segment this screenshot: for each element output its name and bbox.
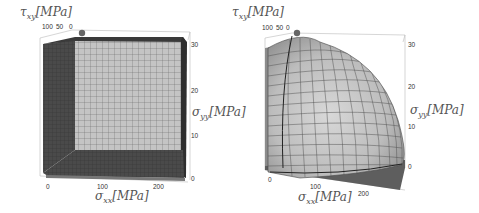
right-tau-xy-axis-label: τxy[MPa] xyxy=(232,5,284,21)
right-tau-tick-100: 100 xyxy=(262,24,273,31)
left-syy-tick-20: 20 xyxy=(191,87,198,94)
right-syy-tick-20: 20 xyxy=(408,83,415,90)
left-sigma-yy-axis-label: σyy[MPa] xyxy=(192,105,246,121)
left-syy-tick-0: 0 xyxy=(191,175,195,182)
figure: τxy[MPa] 100 50 0 30 20 10 0 σyy[MPa] 0 … xyxy=(0,0,479,213)
left-syy-tick-10: 10 xyxy=(191,132,198,139)
left-tau-tick-50: 50 xyxy=(56,23,63,30)
left-sxx-tick-200: 200 xyxy=(153,183,164,190)
right-sigma-xx-axis-label: σxx[MPa] xyxy=(298,190,352,206)
right-tau-tick-0: 0 xyxy=(286,24,290,31)
left-syy-tick-30: 30 xyxy=(191,41,198,48)
right-sigma-yy-axis-label: σyy[MPa] xyxy=(410,103,464,119)
right-tau-tick-50: 50 xyxy=(276,24,283,31)
right-syy-tick-0: 0 xyxy=(408,163,412,170)
right-syy-tick-10: 10 xyxy=(408,123,415,130)
right-sxx-tick-200: 200 xyxy=(358,190,369,197)
left-tau-xy-axis-label: τxy[MPa] xyxy=(20,5,72,21)
left-sigma-xx-axis-label: σxx[MPa] xyxy=(95,189,149,205)
right-syy-tick-30: 30 xyxy=(408,41,415,48)
right-sxx-tick-100: 100 xyxy=(310,183,321,190)
left-tau-tick-0: 0 xyxy=(69,23,73,30)
left-tau-tick-100: 100 xyxy=(42,23,53,30)
right-sxx-tick-0: 0 xyxy=(268,176,272,183)
left-sxx-tick-0: 0 xyxy=(46,183,50,190)
